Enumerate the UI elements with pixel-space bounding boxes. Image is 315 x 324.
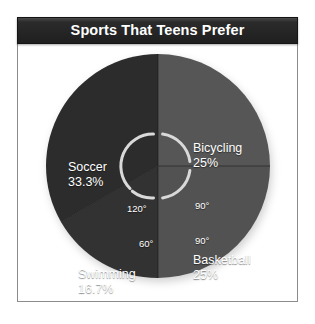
angle-label-swimming: 60° [139, 239, 153, 249]
slice-label-bicycling-percent: 25% [193, 156, 242, 171]
chart-title-banner: Sports That Teens Prefer [17, 17, 298, 44]
slice-label-soccer-name: Soccer [68, 160, 107, 175]
angle-label-basketball: 90° [195, 236, 209, 246]
slice-label-swimming-percent: 16.7% [78, 282, 136, 297]
chart-plot-area: Soccer 33.3% Bicycling 25% Basketball 25… [17, 44, 298, 302]
page-title: Sports That Teens Prefer [71, 23, 245, 38]
angle-label-soccer: 120° [127, 204, 147, 214]
slice-label-swimming: Swimming 16.7% [78, 267, 136, 297]
angle-label-bicycling: 90° [195, 201, 209, 211]
slice-label-basketball: Basketball 25% [193, 253, 251, 283]
slice-label-basketball-percent: 25% [193, 268, 251, 283]
slice-label-soccer: Soccer 33.3% [68, 160, 107, 190]
slice-label-basketball-name: Basketball [193, 253, 251, 268]
slice-label-bicycling: Bicycling 25% [193, 141, 242, 171]
pie-chart-figure: Sports That Teens Prefer [0, 0, 315, 324]
slice-label-soccer-percent: 33.3% [68, 175, 107, 190]
slice-label-swimming-name: Swimming [78, 267, 136, 282]
slice-label-bicycling-name: Bicycling [193, 141, 242, 156]
